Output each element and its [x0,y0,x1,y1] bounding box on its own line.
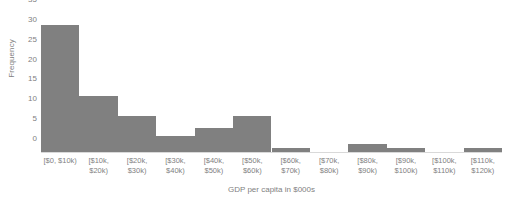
y-axis-tick-label: 30 [3,16,37,24]
y-axis-tick-label: 10 [3,95,37,103]
bar [118,116,156,152]
x-axis-tick-labels: [$0, $10k)[$10k, $20k)[$20k, $30k)[$30k,… [41,156,502,182]
x-axis-tick-label: [$90k, $100k) [387,156,425,176]
y-axis-tick-labels: 05101520253035 [0,0,41,165]
x-axis-tick-label: [$60k, $70k) [272,156,310,176]
x-axis-tick-label: [$100k, $110k) [425,156,463,176]
bar [195,128,233,152]
x-axis-tick-label: [$40k, $50k) [195,156,233,176]
x-axis-title: GDP per capita in $000s [41,185,502,194]
bar [464,148,502,152]
x-axis-tick-label: [$50k, $60k) [233,156,271,176]
bar [79,96,117,152]
x-axis-tick-label: [$80k, $90k) [348,156,386,176]
x-axis-line [41,152,502,153]
bar [41,25,79,152]
y-axis-tick-label: 5 [3,115,37,123]
y-axis-tick-label: 15 [3,75,37,83]
bar [156,136,194,152]
y-axis-tick-label: 0 [3,135,37,143]
bar [233,116,271,152]
bar [348,144,386,152]
y-axis-tick-label: 25 [3,36,37,44]
y-axis-tick-label: 35 [3,0,37,4]
bar [272,148,310,152]
y-axis-tick-label: 20 [3,56,37,64]
x-axis-tick-label: [$70k, $80k) [310,156,348,176]
x-axis-tick-label: [$0, $10k) [41,156,79,166]
histogram-chart: Frequency 05101520253035 [$0, $10k)[$10k… [0,0,505,207]
x-axis-tick-label: [$10k, $20k) [79,156,117,176]
x-axis-tick-label: [$110k, $120k) [464,156,502,176]
bar [387,148,425,152]
bar-series [41,13,502,152]
x-axis-tick-label: [$20k, $30k) [118,156,156,176]
x-axis-tick-label: [$30k, $40k) [156,156,194,176]
